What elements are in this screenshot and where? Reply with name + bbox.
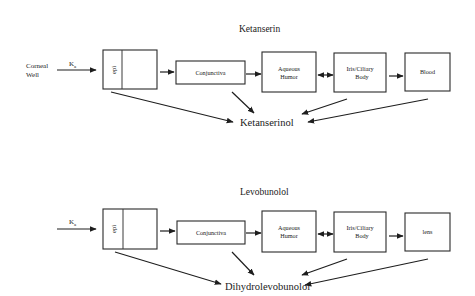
blood-label: Blood [420,68,436,75]
epi-label: epi [110,66,117,74]
compartment-lens: lens [405,213,450,251]
pharmacokinetic-diagram: Ketanserin Corneal Well Ka epi Conjuncti… [0,0,475,296]
arrow-blood-to-metabolite [308,99,428,122]
conjunctiva-label: Conjunctiva [196,229,226,236]
rate-constant-label: Ka [69,218,77,227]
epi-label: epi [110,225,117,233]
compartment-epi: epi [103,209,157,249]
compartment-iris-ciliary-body: Iris/Ciliary Body [334,212,386,252]
corneal-well-label-line2: Well [26,71,39,79]
aqueous-label-line1: Aqueous [278,224,301,231]
compartment-aqueous-humor: Aqueous Humor [262,211,316,252]
arrow-iris-to-metabolite [302,99,347,114]
conjunctiva-label: Conjunctiva [195,69,225,76]
corneal-well-label-line1: Corneal [26,62,48,70]
arrow-conjunctiva-to-metabolite [232,252,254,275]
aqueous-label-line2: Humor [280,73,298,80]
compartment-iris-ciliary-body: Iris/Ciliary Body [334,53,386,92]
arrow-iris-to-metabolite [302,259,347,275]
compartment-aqueous-humor: Aqueous Humor [262,52,316,92]
rate-constant-label: Ka [69,60,77,69]
panel-ketanserin: Ketanserin Corneal Well Ka epi Conjuncti… [26,24,450,128]
arrow-epi-to-metabolite [111,92,233,122]
panel-levobunolol: Levobunolol Ka epi Conjunctiva Aqueous H… [57,187,450,292]
panel-title: Levobunolol [240,187,289,197]
iris-label-line1: Iris/Ciliary [346,65,374,72]
arrow-epi-to-metabolite [115,252,221,284]
arrow-lens-to-metabolite [305,259,428,285]
arrow-conjunctiva-to-metabolite [232,92,254,113]
aqueous-label-line1: Aqueous [278,65,301,72]
iris-label-line2: Body [355,232,369,239]
panel-title: Ketanserin [239,24,280,34]
compartment-conjunctiva: Conjunctiva [176,61,245,84]
compartment-blood: Blood [405,53,450,91]
metabolite-label: Ketanserinol [240,117,294,128]
compartment-conjunctiva: Conjunctiva [177,221,245,244]
lens-label: lens [423,228,434,235]
iris-label-line1: Iris/Ciliary [346,224,374,231]
aqueous-label-line2: Humor [280,232,298,239]
compartment-epi: epi [103,50,157,89]
metabolite-label: Dihydrolevobunolol [225,281,310,292]
iris-label-line2: Body [355,73,369,80]
